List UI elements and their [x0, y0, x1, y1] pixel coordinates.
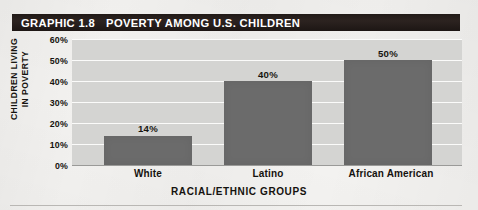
- bar-african-american: [344, 60, 432, 165]
- y-tick-label: 40%: [28, 77, 68, 87]
- y-tick-label: 50%: [28, 56, 68, 66]
- gridline-60: [72, 39, 462, 40]
- bar-value-latino: 40%: [224, 69, 312, 80]
- graphic-number: GRAPHIC 1.8: [21, 17, 95, 29]
- bar-value-african-american: 50%: [344, 48, 432, 59]
- y-axis-ticks: 60% 50% 40% 30% 20% 10% 0%: [24, 39, 68, 165]
- graphic-title-banner: GRAPHIC 1.8 POVERTY AMONG U.S. CHILDREN: [12, 14, 460, 31]
- x-tick-label-white: White: [104, 168, 192, 179]
- y-tick-label: 0%: [28, 161, 68, 171]
- bar-value-white: 14%: [104, 123, 192, 134]
- y-axis-title-line1: CHILDREN LIVING: [9, 20, 20, 138]
- bottom-rule: [10, 205, 462, 206]
- bar-white: [104, 136, 192, 165]
- y-tick-label: 10%: [28, 140, 68, 150]
- x-tick-label-african-american: African American: [336, 168, 446, 179]
- graphic-figure: GRAPHIC 1.8 POVERTY AMONG U.S. CHILDREN …: [0, 0, 478, 210]
- x-axis-baseline: [72, 165, 462, 166]
- y-tick-label: 30%: [28, 98, 68, 108]
- x-axis-title: RACIAL/ETHNIC GROUPS: [0, 186, 478, 197]
- y-tick-label: 20%: [28, 119, 68, 129]
- y-tick-label: 60%: [28, 35, 68, 45]
- plot-area: 14% 40% 50%: [72, 39, 462, 165]
- x-tick-label-latino: Latino: [224, 168, 312, 179]
- graphic-title: POVERTY AMONG U.S. CHILDREN: [106, 17, 300, 29]
- bar-latino: [224, 81, 312, 165]
